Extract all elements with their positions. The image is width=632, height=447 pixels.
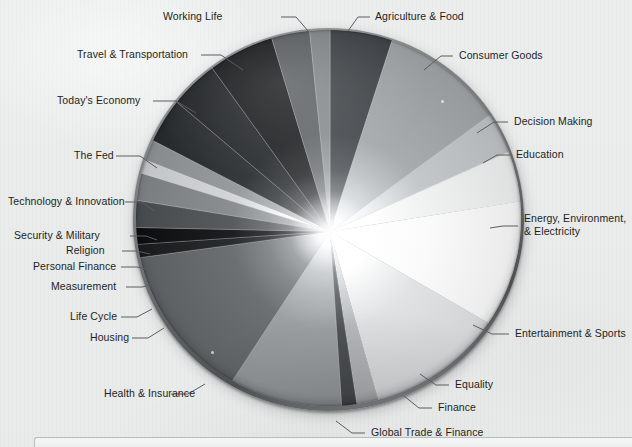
slice-label-working-life: Working Life xyxy=(163,10,222,23)
slice-label-todays-economy: Today's Economy xyxy=(57,94,140,107)
pie-disc xyxy=(136,30,521,406)
slice-label-consumer-goods: Consumer Goods xyxy=(459,49,543,62)
pie-speck xyxy=(441,100,444,103)
slice-label-agriculture-food: Agriculture & Food xyxy=(375,10,464,23)
slice-label-personal-finance: Personal Finance xyxy=(33,260,116,273)
slice-label-entertainment-sports: Entertainment & Sports xyxy=(515,327,626,340)
slice-label-education: Education xyxy=(516,148,564,161)
slice-label-health-insurance: Health & Insurance xyxy=(104,387,195,400)
pie-speck xyxy=(211,351,214,354)
slice-label-measurement: Measurement xyxy=(51,280,116,293)
slice-label-housing: Housing xyxy=(90,331,129,344)
slice-label-religion: Religion xyxy=(66,244,105,257)
pie-slices xyxy=(136,30,521,406)
slice-label-security-military: Security & Military xyxy=(14,229,100,242)
bottom-frame-edge xyxy=(34,437,632,447)
figure-canvas: Working Life Agriculture & Food Travel &… xyxy=(0,0,632,447)
slice-label-technology-innovation: Technology & Innovation xyxy=(8,195,125,208)
slice-label-energy-environment-electricity: Energy, Environment, & Electricity xyxy=(524,212,632,237)
slice-label-life-cycle: Life Cycle xyxy=(70,310,117,323)
slice-label-equality: Equality xyxy=(455,378,493,391)
slice-label-decision-making: Decision Making xyxy=(514,115,593,128)
slice-label-finance: Finance xyxy=(438,401,476,414)
slice-label-the-fed: The Fed xyxy=(74,149,114,162)
slice-label-travel-transportation: Travel & Transportation xyxy=(77,48,188,61)
